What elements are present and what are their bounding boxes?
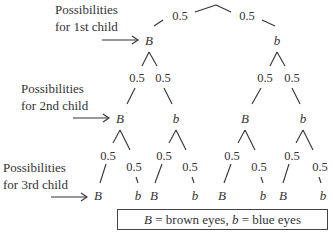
branch-root-left <box>195 5 216 12</box>
branch-root-right <box>216 5 231 12</box>
row-label-2nd-line2: for 2nd child <box>21 98 88 113</box>
prob-l1-3: 0.5 <box>284 72 300 85</box>
row-label-1st-line2: for 1st child <box>55 19 118 34</box>
prob-l1-2: 0.5 <box>257 72 273 85</box>
node-l2-2: B <box>241 112 249 126</box>
prob-l2-2: 0.5 <box>156 150 172 163</box>
node-l2-3: b <box>300 112 307 126</box>
prob-l1-0: 0.5 <box>129 72 145 85</box>
prob-l2-5: 0.5 <box>251 161 267 174</box>
prob-l2-3: 0.5 <box>182 161 198 174</box>
branch-root-right-lower <box>262 20 275 26</box>
legend-box: B = brown eyes, b = blue eyes <box>117 209 328 230</box>
legend-symbol-B: B <box>144 212 152 227</box>
prob-l2-1: 0.5 <box>126 161 142 174</box>
node-l3-7: b <box>320 189 327 203</box>
node-l3-4: B <box>218 189 226 203</box>
branch-root-left-lower <box>154 20 163 26</box>
node-l1-B: B <box>145 34 153 48</box>
node-l3-2: B <box>150 189 158 203</box>
node-l2-0: B <box>116 112 124 126</box>
row-label-3rd-line2: for 3rd child <box>3 177 68 192</box>
node-l3-0: B <box>94 189 102 203</box>
legend-text-b: = blue eyes <box>238 212 301 227</box>
prob-l1-1: 0.5 <box>155 72 171 85</box>
node-l3-1: b <box>135 189 142 203</box>
prob-l2-7: 0.5 <box>312 161 328 174</box>
row-label-1st-line1: Possibilities <box>55 2 118 17</box>
row-label-3rd-line1: Possibilities <box>3 160 66 175</box>
prob-l2-4: 0.5 <box>224 150 240 163</box>
node-l3-6: B <box>279 189 287 203</box>
prob-root-right: 0.5 <box>239 10 255 23</box>
prob-l2-6: 0.5 <box>284 150 300 163</box>
prob-root-left: 0.5 <box>172 10 188 23</box>
legend-text-B: = brown eyes, <box>152 212 232 227</box>
prob-l2-0: 0.5 <box>100 150 116 163</box>
node-l1-b: b <box>274 34 281 48</box>
node-l3-5: b <box>260 189 267 203</box>
node-l2-1: b <box>173 112 180 126</box>
row-label-2nd-line1: Possibilities <box>21 81 84 96</box>
node-l3-3: b <box>192 189 199 203</box>
